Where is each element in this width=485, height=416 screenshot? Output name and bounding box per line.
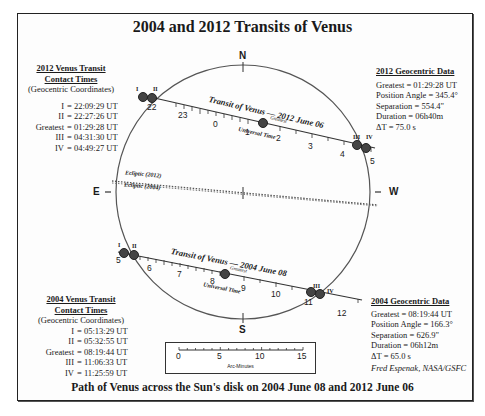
contact-2004-II <box>130 251 139 260</box>
contact-2012-III <box>353 141 362 150</box>
geocentric-data-2012: 2012 Geocentric Data Greatest = 01:29:28… <box>376 66 471 132</box>
contact-times-2012: 2012 Venus Transit Contact Times (Geocen… <box>20 63 122 153</box>
north-label: N <box>239 50 246 61</box>
greatest-2004-marker <box>221 270 230 279</box>
contact-2012-I <box>139 93 148 102</box>
credit-text: Fred Espenak, NASA/GSFC <box>371 363 471 374</box>
scale-unit-label: Arc-Minutes <box>166 363 315 369</box>
arc-minutes-scale-bar: 0 5 10 15 Arc-Minutes <box>165 342 316 374</box>
geocentric-data-2004: 2004 Geocentric Data Greatest = 08:19:44… <box>371 296 471 374</box>
contact-2012-IV <box>362 144 371 153</box>
contact-2004-IV <box>316 290 325 299</box>
west-label: W <box>389 186 398 197</box>
south-label: S <box>239 324 246 335</box>
east-label: E <box>93 186 100 197</box>
contact-times-2004: 2004 Venus Transit Contact Times (Geocen… <box>30 294 132 378</box>
diagram-caption: Path of Venus across the Sun's disk on 2… <box>0 381 485 393</box>
greatest-2012-marker <box>259 119 268 128</box>
